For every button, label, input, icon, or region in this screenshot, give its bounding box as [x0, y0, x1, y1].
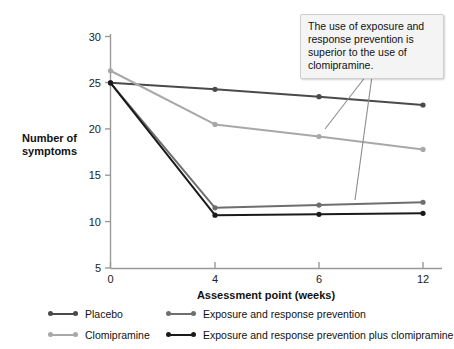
legend-swatch-icon-erp-plus-clomipramine [166, 330, 196, 340]
data-point [420, 102, 425, 107]
x-tick-label-4: 4 [212, 273, 218, 285]
y-axis-title-line1: Number of [22, 132, 77, 144]
legend-row-2: Clomipramine Exposure and response preve… [48, 324, 454, 345]
x-axis-ticks [111, 262, 424, 269]
legend-item-erp-plus-clomipramine[interactable]: Exposure and response prevention plus cl… [166, 329, 453, 341]
legend-label-placebo: Placebo [85, 308, 123, 320]
y-tick-label-10: 10 [89, 216, 101, 228]
legend-swatch-icon-placebo [48, 309, 78, 319]
x-tick-label-6: 6 [316, 273, 322, 285]
chart-container: 30 25 20 15 10 5 0 4 6 12 Assessment poi… [0, 0, 454, 349]
legend-row-1: Placebo Exposure and response prevention [48, 303, 454, 324]
legend-swatch-icon-erp [166, 309, 196, 319]
y-tick-label-25: 25 [89, 77, 101, 89]
chart-legend: Placebo Exposure and response prevention… [48, 303, 454, 347]
legend-label-erp-plus-clomipramine: Exposure and response prevention plus cl… [203, 329, 453, 341]
data-point [212, 213, 217, 218]
data-point [316, 202, 321, 207]
series-layer [108, 68, 426, 218]
legend-item-clomipramine[interactable]: Clomipramine [48, 329, 166, 341]
data-point [212, 205, 217, 210]
data-point [420, 147, 425, 152]
legend-swatch-icon-clomipramine [48, 330, 78, 340]
x-axis-title: Assessment point (weeks) [197, 289, 335, 301]
data-point [316, 134, 321, 139]
data-point [420, 200, 425, 205]
data-point [316, 212, 321, 217]
y-tick-label-5: 5 [95, 262, 101, 274]
data-point [420, 211, 425, 216]
y-tick-label-20: 20 [89, 123, 101, 135]
data-point [212, 87, 217, 92]
callout-leader-upper [325, 76, 366, 129]
legend-label-clomipramine: Clomipramine [85, 329, 150, 341]
callout-annotation-box: The use of exposure and response prevent… [300, 14, 444, 79]
data-point [108, 80, 113, 85]
y-axis-title-line2: symptoms [22, 145, 77, 157]
series-line-3 [111, 83, 424, 215]
x-tick-label-12: 12 [417, 273, 429, 285]
legend-item-placebo[interactable]: Placebo [48, 308, 166, 320]
data-point [108, 68, 113, 73]
legend-item-erp[interactable]: Exposure and response prevention [166, 308, 366, 320]
callout-leader-lower [355, 76, 372, 200]
x-tick-label-0: 0 [107, 273, 113, 285]
callout-annotation-text: The use of exposure and response prevent… [308, 20, 436, 72]
legend-label-erp: Exposure and response prevention [203, 308, 366, 320]
data-point [212, 122, 217, 127]
data-point [316, 94, 321, 99]
y-tick-label-15: 15 [89, 169, 101, 181]
y-tick-label-30: 30 [89, 31, 101, 43]
